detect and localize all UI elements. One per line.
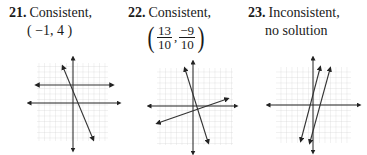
graph-21 <box>29 58 119 150</box>
graph-22 <box>149 62 236 153</box>
graphs-canvas <box>0 0 367 155</box>
graph-23 <box>268 58 359 152</box>
